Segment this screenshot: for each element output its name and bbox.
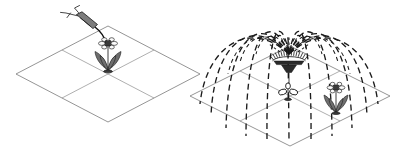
nozzle-slot-11	[296, 51, 297, 56]
sprinkler-head	[270, 50, 308, 84]
watering-can	[61, 6, 98, 29]
sprinkler-body	[282, 65, 297, 73]
flower-plant-right	[324, 82, 348, 114]
seedling-leaf-left	[278, 88, 288, 96]
nozzle-slot-6	[284, 50, 285, 56]
petal-left-b	[111, 41, 118, 45]
petal-left-a	[99, 41, 106, 45]
targeted-watering-panel	[16, 6, 200, 123]
soil-mound-left	[103, 70, 112, 73]
sprinkler-collar	[274, 61, 304, 65]
flower-center-left	[105, 40, 111, 46]
nozzle-slot-13	[300, 53, 302, 58]
can-body	[77, 12, 98, 29]
nozzle-slot-10	[294, 50, 295, 56]
seedling-plant-right	[278, 83, 299, 101]
petal-right-b	[339, 86, 345, 90]
soil-mound-seedling	[284, 98, 291, 101]
petal-right-a	[327, 86, 333, 90]
nozzle-slot-5	[281, 51, 282, 56]
nozzle-slot-2	[273, 54, 276, 59]
spray-arc-5	[226, 34, 289, 128]
can-handle	[75, 6, 80, 13]
spray-arc-2	[289, 38, 378, 104]
soil-mound-right	[332, 112, 340, 115]
seedling-bud	[286, 83, 291, 89]
flower-center-right	[333, 85, 338, 90]
irrigation-comparison-figure	[0, 0, 400, 153]
seedling-leaf-right	[289, 88, 299, 96]
nozzle-slot-14	[303, 54, 306, 59]
flower-plant-left	[95, 38, 121, 73]
figure-canvas	[0, 0, 400, 153]
nozzle-slot-3	[275, 53, 277, 58]
spray-arc-1	[200, 38, 289, 104]
sprinkler-irrigation-panel	[190, 31, 390, 146]
sprinkler-nozzle-crown	[270, 50, 308, 61]
